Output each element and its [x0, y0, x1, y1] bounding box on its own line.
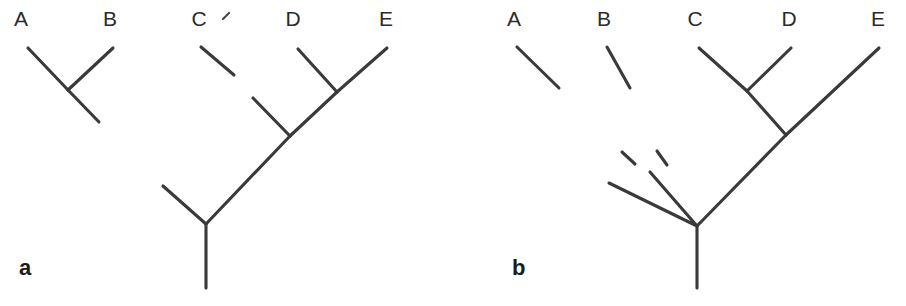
branch-a-dash [622, 152, 635, 164]
branch-b-fragment [607, 47, 630, 88]
taxon-label-a: A [14, 7, 28, 30]
branch-a-lower [609, 183, 697, 226]
tick-after-c [223, 13, 229, 19]
branch-de-stem [290, 92, 337, 136]
branch-d [298, 49, 337, 92]
taxon-label-a: A [507, 7, 521, 30]
panel-b: ABCDEb [507, 7, 885, 288]
phylogenetic-tree-figure: ABCDEa ABCDEb [0, 0, 906, 306]
taxon-label-c: C [687, 7, 702, 30]
branch-a [28, 48, 68, 90]
branch-b-lower [650, 172, 697, 226]
branch-cde-stem [697, 135, 786, 226]
branch-c-fragment [201, 47, 234, 75]
branch-d [747, 48, 791, 91]
taxon-label-b: B [103, 7, 117, 30]
branch-cde-stem [206, 136, 290, 224]
branch-ab-stem [68, 90, 99, 122]
taxon-label-d: D [285, 7, 300, 30]
branch-c [699, 48, 747, 91]
taxon-label-d: D [781, 7, 796, 30]
taxon-label-e: E [379, 7, 393, 30]
branch-b [68, 48, 113, 90]
branch-b-dash [657, 151, 667, 165]
branch-e [337, 48, 387, 92]
taxon-label-c: C [191, 7, 206, 30]
branch-e [786, 48, 879, 135]
panel-a: ABCDEa [14, 7, 393, 288]
branch-cd-stem [747, 91, 786, 135]
taxon-label-e: E [871, 7, 885, 30]
branch-a-fragment [517, 47, 559, 88]
figure-canvas: ABCDEa ABCDEb [0, 0, 906, 306]
taxon-label-b: B [597, 7, 611, 30]
panel-label-a: a [19, 255, 32, 280]
branch-inner-left [253, 98, 290, 136]
panel-label-b: b [512, 255, 525, 280]
branch-root-left [163, 186, 206, 224]
